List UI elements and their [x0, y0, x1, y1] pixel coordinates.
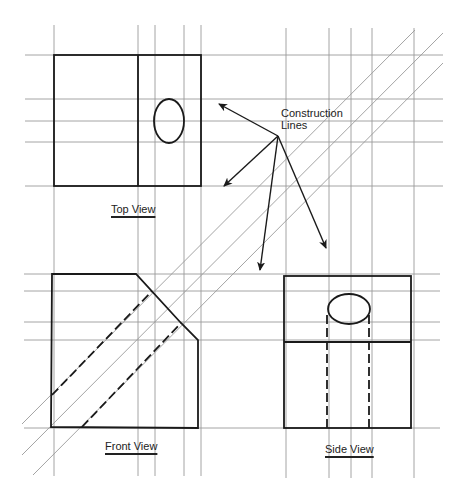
- side-view-hole: [328, 294, 370, 324]
- side-view-label: Side View: [325, 443, 374, 455]
- side-view: [284, 276, 411, 428]
- construction-lines: [22, 25, 443, 478]
- leader-arrow-icon: [260, 136, 278, 270]
- side-view-outline: [284, 276, 411, 428]
- front-view-hidden-line: [52, 291, 152, 395]
- front-view-hidden-line: [82, 323, 181, 427]
- construction-line-diagonal: [22, 33, 443, 455]
- top-view: [54, 55, 201, 186]
- front-view-label: Front View: [105, 440, 157, 452]
- construction-label-line1: Construction: [281, 107, 343, 119]
- leader-arrow-icon: [278, 136, 326, 248]
- construction-label-line2: Lines: [281, 119, 343, 131]
- leader-arrow-icon: [219, 104, 278, 136]
- top-view-outline: [54, 55, 201, 186]
- construction-lines-label: Construction Lines: [281, 107, 343, 131]
- front-view: [51, 274, 198, 428]
- orthographic-drawing: Construction Lines Top View Front View S…: [0, 0, 462, 500]
- drawing-canvas: [0, 0, 462, 500]
- front-view-outline: [51, 274, 198, 428]
- top-view-label: Top View: [111, 203, 155, 215]
- leader-arrow-icon: [224, 136, 278, 186]
